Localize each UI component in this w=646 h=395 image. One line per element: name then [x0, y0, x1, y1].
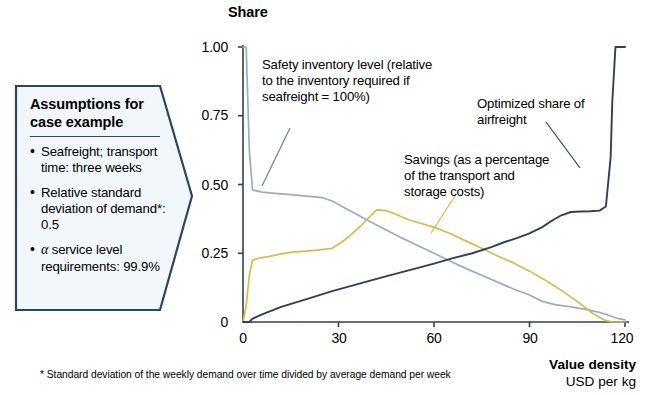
y-tick-label-1-00: 1.00 [182, 39, 228, 55]
annotation-airfreight: Optimized share of airfreight [477, 96, 607, 128]
chart-axes [238, 45, 629, 327]
assumption-item-1: Seafreight; transport time: three weeks [30, 144, 168, 176]
footnote: * Standard deviation of the weekly deman… [40, 369, 451, 380]
x-tick-label-90: 90 [510, 330, 550, 346]
assumption-item-3-text: service level requirements: 99.9% [41, 242, 160, 274]
annotation-savings: Savings (as a percentage of the transpor… [404, 152, 552, 200]
x-axis-title: Value density USD per kg [549, 357, 636, 390]
assumptions-callout: Assumptions for case example Seafreight;… [14, 84, 196, 312]
x-axis-title-main: Value density [549, 357, 636, 372]
callout-title-line1: Assumptions for [30, 96, 144, 112]
callout-title-line2: case example [30, 114, 123, 130]
x-tick-label-60: 60 [414, 330, 454, 346]
callout-divider [30, 136, 160, 137]
x-tick-label-0: 0 [223, 330, 263, 346]
annotation-safety-inventory: Safety inventory level (relative to the … [262, 57, 437, 105]
series-line-1 [243, 210, 625, 322]
series-line-0 [243, 47, 625, 320]
y-tick-label-0: 0 [182, 314, 228, 330]
x-axis-title-sub: USD per kg [566, 374, 636, 389]
series-line-2 [243, 47, 625, 322]
y-axis-title: Share [228, 4, 268, 20]
x-tick-label-120: 120 [602, 330, 642, 346]
assumptions-list: Seafreight; transport time: three weeks … [30, 144, 168, 275]
assumption-item-3: α service level requirements: 99.9% [30, 242, 168, 275]
callout-title: Assumptions for case example [30, 96, 168, 131]
annotation-leader-lines [262, 122, 580, 233]
assumption-item-2: Relative standard deviation of demand*: … [30, 185, 168, 233]
chart-page: Assumptions for case example Seafreight;… [0, 0, 646, 395]
chart-series [243, 47, 625, 322]
x-tick-label-30: 30 [319, 330, 359, 346]
